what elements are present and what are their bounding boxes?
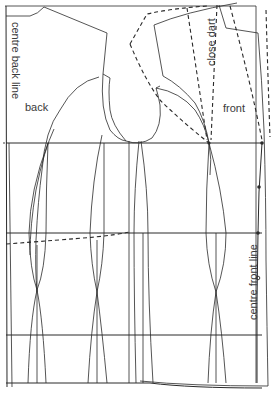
back-seam-b-left xyxy=(90,135,107,383)
waist-front-dot xyxy=(256,231,260,235)
chest-front-dot xyxy=(260,141,264,145)
chest-back-tick xyxy=(3,142,5,144)
centre-front-dot-1 xyxy=(257,185,261,189)
dashed-lapel-edge xyxy=(266,10,270,137)
front-seam-right xyxy=(208,143,226,383)
front-armhole-tip xyxy=(156,86,160,88)
side-seam-1 xyxy=(134,141,139,383)
underarm-curve xyxy=(103,74,160,143)
front-label: front xyxy=(223,103,245,114)
back-neck-shoulder-armhole xyxy=(6,7,126,141)
front-neck-lapel-edge xyxy=(219,5,268,386)
front-shoulder-seam xyxy=(154,25,195,103)
dashed-front-edge xyxy=(230,6,262,140)
close-dart-left-leg xyxy=(187,8,207,140)
centre-back-line-label: centre back line xyxy=(10,22,21,99)
centre-front-line-label: centre front line xyxy=(248,244,259,320)
centre-back-seam xyxy=(9,143,12,387)
pattern-diagram xyxy=(0,0,277,397)
back-seam-b-right xyxy=(88,143,104,383)
close-dart-label: close dart xyxy=(206,18,217,66)
waist-dashed-line xyxy=(6,232,130,244)
centre-back-line xyxy=(6,6,7,387)
back-label: back xyxy=(25,102,48,113)
front-hem-line xyxy=(140,381,268,386)
dashed-armhole-shift xyxy=(130,44,209,143)
bust-point-dot xyxy=(207,141,210,144)
